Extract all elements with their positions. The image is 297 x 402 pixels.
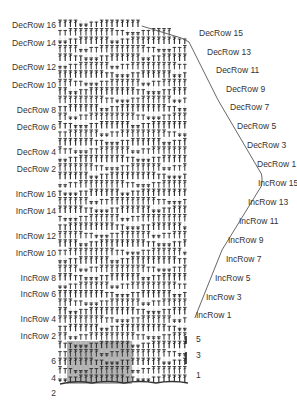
row-label-left: DecRow 12 [0,62,56,72]
row-label-right: DecRow 9 [226,84,265,94]
row-label-left: IncRow 4 [0,314,56,324]
row-label-left: DecRow 14 [0,38,56,48]
row-label-right: IncRow 11 [239,216,279,226]
row-label-left: 2 [0,388,56,398]
row-label-right: DecRow 15 [199,28,243,38]
row-label-left: 6 [0,356,56,366]
row-label-left: DecRow 4 [0,147,56,157]
row-label-right: DecRow 11 [216,65,259,75]
row-label-right: IncRow 7 [226,254,261,264]
row-label-left: 4 [0,373,56,383]
row-label-left: DecRow 2 [0,164,56,174]
row-label-right: IncRow 15 [258,178,297,188]
row-label-right: DecRow 5 [237,121,276,131]
row-label-left: DecRow 16 [0,20,56,30]
row-label-left: IncRow 16 [0,189,56,199]
row-label-left: DecRow 6 [0,122,56,132]
row-label-right: DecRow 3 [247,140,286,150]
row-label-right: 3 [196,350,201,360]
row-label-left: IncRow 8 [0,273,56,283]
row-label-left: IncRow 14 [0,206,56,216]
row-label-left: IncRow 12 [0,231,56,241]
row-label-right: IncRow 13 [248,197,288,207]
row-label-left: DecRow 10 [0,80,56,90]
row-label-right: 5 [196,334,201,344]
row-label-right: IncRow 1 [196,310,231,320]
row-label-right: IncRow 5 [215,273,250,283]
row-label-right: IncRow 3 [206,292,241,302]
row-label-right: DecRow 13 [207,47,251,57]
row-label-left: DecRow 8 [0,105,56,115]
row-label-right: DecRow 7 [230,102,269,112]
row-label-left: IncRow 10 [0,248,56,258]
crochet-chart: DecRow 16DecRow 14DecRow 12DecRow 10DecR… [0,0,297,402]
row-label-right: DecRow 1 [257,159,296,169]
row-label-left: IncRow 2 [0,331,56,341]
row-label-left: IncRow 6 [0,289,56,299]
row-label-right: IncRow 9 [228,235,263,245]
row-label-right: 1 [196,370,201,380]
